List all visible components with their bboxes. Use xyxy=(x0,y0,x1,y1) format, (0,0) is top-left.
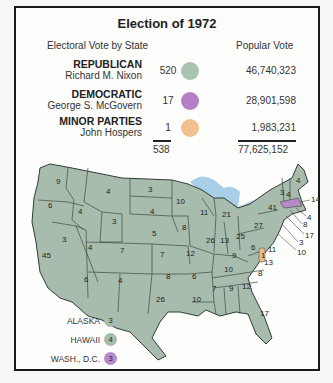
svg-text:5: 5 xyxy=(152,229,157,238)
svg-text:4: 4 xyxy=(307,213,312,222)
svg-text:13: 13 xyxy=(220,236,229,245)
svg-text:8: 8 xyxy=(258,269,263,278)
svg-text:21: 21 xyxy=(222,210,231,219)
svg-text:27: 27 xyxy=(254,221,263,230)
inset-dc: WASH., D.C. 3 xyxy=(16,352,117,365)
inset-label: ALASKA xyxy=(16,316,100,326)
svg-text:9: 9 xyxy=(229,284,234,293)
svg-text:3: 3 xyxy=(280,188,285,197)
inset-alaska: ALASKA 3 xyxy=(16,314,117,327)
svg-text:12: 12 xyxy=(242,282,251,291)
svg-text:3: 3 xyxy=(148,185,153,194)
svg-text:26: 26 xyxy=(206,236,215,245)
svg-text:4: 4 xyxy=(88,243,93,252)
svg-text:10: 10 xyxy=(224,265,233,274)
svg-text:6: 6 xyxy=(84,275,89,284)
svg-text:11: 11 xyxy=(268,245,277,254)
svg-text:45: 45 xyxy=(42,251,51,260)
svg-text:3: 3 xyxy=(299,238,304,247)
svg-text:8: 8 xyxy=(182,223,187,232)
svg-text:4: 4 xyxy=(286,190,291,199)
svg-text:14: 14 xyxy=(311,195,320,204)
svg-text:7: 7 xyxy=(160,250,165,259)
svg-text:11: 11 xyxy=(200,208,209,217)
svg-text:10: 10 xyxy=(176,197,185,206)
svg-text:17: 17 xyxy=(305,231,314,240)
svg-text:1: 1 xyxy=(261,251,266,260)
inset-label: WASH., D.C. xyxy=(16,354,100,364)
svg-text:17: 17 xyxy=(260,309,269,318)
svg-text:4: 4 xyxy=(296,176,301,185)
svg-text:3: 3 xyxy=(62,235,67,244)
svg-text:4: 4 xyxy=(78,207,83,216)
svg-text:6: 6 xyxy=(192,272,197,281)
svg-text:41: 41 xyxy=(268,203,277,212)
inset-ev-badge: 3 xyxy=(104,352,117,365)
inset-ev-badge: 3 xyxy=(104,314,117,327)
inset-label: HAWAII xyxy=(16,335,100,345)
svg-text:7: 7 xyxy=(120,246,125,255)
inset-hawaii: HAWAII 4 xyxy=(16,333,117,346)
svg-text:10: 10 xyxy=(192,295,201,304)
svg-text:9: 9 xyxy=(232,251,237,260)
svg-text:4: 4 xyxy=(150,207,155,216)
svg-text:8: 8 xyxy=(166,272,171,281)
svg-text:10: 10 xyxy=(297,248,306,257)
svg-text:6: 6 xyxy=(48,201,53,210)
svg-text:9: 9 xyxy=(56,177,61,186)
svg-text:4: 4 xyxy=(118,276,123,285)
svg-text:4: 4 xyxy=(106,187,111,196)
svg-text:7: 7 xyxy=(212,284,217,293)
inset-ev-badge: 4 xyxy=(104,333,117,346)
svg-text:6: 6 xyxy=(251,243,256,252)
svg-text:25: 25 xyxy=(236,232,245,241)
svg-text:12: 12 xyxy=(186,249,195,258)
svg-text:3: 3 xyxy=(112,217,117,226)
svg-text:26: 26 xyxy=(156,295,165,304)
election-chart-frame: Election of 1972 Electoral Vote by State… xyxy=(14,6,320,371)
svg-text:8: 8 xyxy=(303,220,308,229)
